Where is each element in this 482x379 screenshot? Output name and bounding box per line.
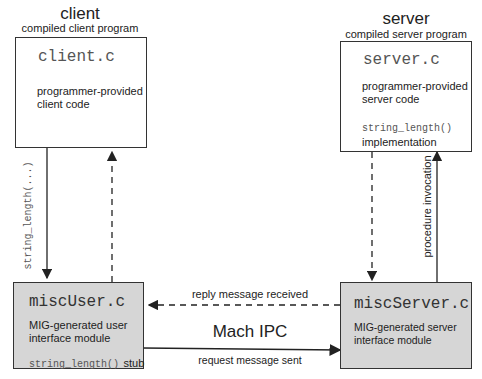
misc-user-stub-label: stub — [123, 357, 144, 369]
server-file: server.c — [363, 51, 440, 69]
reply-label: reply message received — [160, 288, 340, 301]
misc-user-stub-code: string_length() — [29, 359, 119, 370]
client-subtitle: compiled client program — [15, 22, 145, 34]
client-file: client.c — [38, 48, 115, 66]
misc-server-desc-line2: interface module — [354, 334, 432, 347]
misc-user-file: miscUser.c — [29, 293, 125, 311]
misc-user-box: miscUser.c MIG-generated user interface … — [13, 282, 144, 369]
misc-user-stub: string_length() stub — [29, 353, 144, 371]
server-box: server.c programmer-provided server code… — [340, 41, 472, 152]
misc-server-box: miscServer.c MIG-generated server interf… — [340, 282, 472, 369]
misc-server-desc-line1: MIG-generated server — [354, 321, 457, 334]
client-call-label: string_length(...) — [23, 156, 34, 276]
misc-user-desc-line1: MIG-generated user — [29, 319, 127, 332]
server-subtitle: compiled server program — [335, 28, 477, 40]
server-desc-line1: programmer-provided — [362, 80, 468, 93]
request-arrow — [143, 348, 340, 350]
client-desc-line1: programmer-provided — [37, 85, 143, 98]
server-desc-line2: server code — [362, 93, 419, 106]
request-label: request message sent — [160, 354, 340, 367]
client-desc-line2: client code — [37, 98, 90, 111]
client-box: client.c programmer-provided client code — [15, 37, 147, 148]
server-title: server — [340, 9, 472, 29]
procedure-invocation-label: procedure invocation — [421, 142, 434, 272]
misc-server-file: miscServer.c — [354, 295, 469, 313]
client-title: client — [15, 4, 145, 24]
server-impl-code: string_length() — [362, 123, 452, 134]
ipc-label: Mach IPC — [160, 322, 340, 342]
misc-user-desc-line2: interface module — [29, 332, 110, 345]
